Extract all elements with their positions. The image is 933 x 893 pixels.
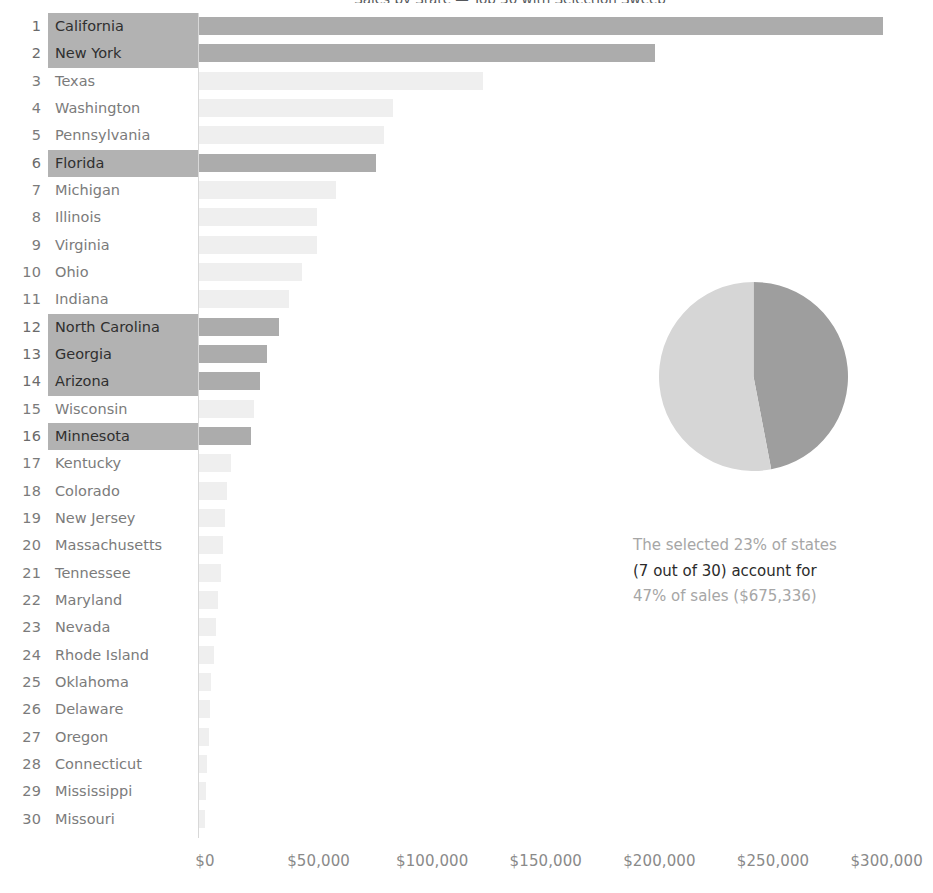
state-row[interactable]: 25Oklahoma [0,669,933,696]
state-sales-bar[interactable] [199,400,254,418]
state-sales-bar[interactable] [199,290,289,308]
state-row[interactable]: 29Mississippi [0,778,933,805]
state-name-label: Connecticut [55,751,142,778]
state-rank-label: 19 [8,505,41,532]
state-name-label: Indiana [55,286,109,313]
state-row[interactable]: 2New York [0,40,933,67]
axis-tick-label: $250,000 [737,852,809,870]
state-rank-label: 15 [8,396,41,423]
state-row[interactable]: 4Washington [0,95,933,122]
state-row[interactable]: 3Texas [0,68,933,95]
state-row[interactable]: 19New Jersey [0,505,933,532]
state-sales-bar[interactable] [199,728,209,746]
state-rank-label: 27 [8,724,41,751]
state-name-label: Michigan [55,177,120,204]
state-row[interactable]: 26Delaware [0,696,933,723]
state-sales-bar[interactable] [199,263,302,281]
state-sales-bar[interactable] [199,345,267,363]
state-rank-label: 21 [8,560,41,587]
axis-tick-label: $50,000 [287,852,350,870]
state-rank-label: 28 [8,751,41,778]
annotation-line-2: (7 out of 30) account for [633,559,903,585]
state-name-label: Rhode Island [55,642,149,669]
state-sales-bar[interactable] [199,591,218,609]
pie-svg [659,282,848,471]
state-rank-label: 17 [8,450,41,477]
state-sales-bar[interactable] [199,509,225,527]
state-sales-bar[interactable] [199,17,883,35]
state-name-label: Colorado [55,478,120,505]
state-rank-label: 1 [8,13,41,40]
state-sales-bar[interactable] [199,618,216,636]
state-name-label: Florida [55,150,104,177]
state-name-label: Georgia [55,341,112,368]
state-name-label: Delaware [55,696,123,723]
state-rank-label: 8 [8,204,41,231]
state-row[interactable]: 8Illinois [0,204,933,231]
state-sales-bar[interactable] [199,536,223,554]
state-name-label: California [55,13,124,40]
state-sales-bar[interactable] [199,700,210,718]
state-sales-bar[interactable] [199,154,376,172]
annotation-line-1: The selected 23% of states [633,533,903,559]
state-name-label: Washington [55,95,140,122]
state-rank-label: 2 [8,40,41,67]
state-name-label: Illinois [55,204,101,231]
state-rank-label: 29 [8,778,41,805]
x-axis-tick-labels: $0$50,000$100,000$150,000$200,000$250,00… [0,852,933,882]
state-sales-bar[interactable] [199,208,317,226]
state-sales-bar[interactable] [199,99,393,117]
state-name-label: New York [55,40,121,67]
state-rank-label: 11 [8,286,41,313]
state-sales-bar[interactable] [199,318,279,336]
state-row[interactable]: 7Michigan [0,177,933,204]
state-sales-bar[interactable] [199,482,227,500]
state-rank-label: 5 [8,122,41,149]
state-rank-label: 24 [8,642,41,669]
state-rank-label: 6 [8,150,41,177]
state-name-label: Maryland [55,587,122,614]
state-sales-bar[interactable] [199,427,251,445]
state-row[interactable]: 28Connecticut [0,751,933,778]
state-sales-bar[interactable] [199,810,205,828]
state-name-label: Kentucky [55,450,121,477]
state-name-label: Texas [55,68,95,95]
state-row[interactable]: 6Florida [0,150,933,177]
state-name-label: New Jersey [55,505,135,532]
state-sales-bar[interactable] [199,564,221,582]
state-name-label: Minnesota [55,423,130,450]
state-row[interactable]: 30Missouri [0,806,933,833]
state-sales-bar[interactable] [199,72,483,90]
state-sales-bar[interactable] [199,236,317,254]
state-sales-bar[interactable] [199,454,231,472]
selection-summary-annotation: The selected 23% of states (7 out of 30)… [633,533,903,610]
state-name-label: North Carolina [55,314,160,341]
state-row[interactable]: 9Virginia [0,232,933,259]
state-row[interactable]: 18Colorado [0,478,933,505]
state-sales-bar[interactable] [199,44,655,62]
state-rank-label: 16 [8,423,41,450]
state-sales-bar[interactable] [199,673,211,691]
state-sales-bar[interactable] [199,181,336,199]
sales-share-pie-chart[interactable] [659,282,848,471]
state-row[interactable]: 5Pennsylvania [0,122,933,149]
state-sales-bar[interactable] [199,126,384,144]
state-rank-label: 4 [8,95,41,122]
state-sales-bar[interactable] [199,646,214,664]
pie-slice[interactable] [754,282,849,469]
state-name-label: Mississippi [55,778,132,805]
state-sales-bar[interactable] [199,782,206,800]
state-row[interactable]: 1California [0,13,933,40]
annotation-line-3: 47% of sales ($675,336) [633,584,903,610]
axis-tick-label: $0 [195,852,214,870]
state-sales-bar[interactable] [199,372,260,390]
state-sales-bar[interactable] [199,755,207,773]
axis-tick-label: $200,000 [623,852,695,870]
sales-by-state-visualization: Sales by State — Top 30 with Selection S… [0,0,933,893]
state-row[interactable]: 24Rhode Island [0,642,933,669]
state-rank-label: 18 [8,478,41,505]
state-row[interactable]: 27Oregon [0,724,933,751]
state-row[interactable]: 23Nevada [0,614,933,641]
state-name-label: Pennsylvania [55,122,150,149]
state-rank-label: 10 [8,259,41,286]
